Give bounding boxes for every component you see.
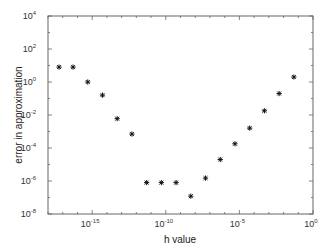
y-tick-label: 100 — [23, 76, 37, 87]
data-point-asterisk — [85, 79, 90, 84]
chart: 10-1510-1010-510010410210010-210-410-610… — [0, 0, 335, 252]
data-point-asterisk — [262, 108, 267, 113]
data-point-asterisk — [100, 93, 105, 98]
data-point-asterisk — [129, 131, 134, 136]
x-tick-label: 10-15 — [81, 218, 100, 229]
data-point-asterisk — [291, 74, 296, 79]
data-point-asterisk — [218, 157, 223, 162]
data-point-asterisk — [159, 180, 164, 185]
y-tick-label: 102 — [23, 43, 37, 54]
y-tick-label: 10-8 — [21, 208, 37, 219]
y-tick-label: 10-6 — [21, 175, 37, 186]
data-point-asterisk — [115, 116, 120, 121]
data-point-asterisk — [173, 180, 178, 185]
plot-frame — [48, 16, 313, 214]
plot-area: 10-1510-1010-510010410210010-210-410-610… — [21, 10, 319, 229]
data-point-asterisk — [144, 180, 149, 185]
x-axis-label: h value — [164, 234, 197, 245]
data-point-asterisk — [203, 175, 208, 180]
x-tick-label: 10-5 — [230, 218, 246, 229]
data-point-asterisk — [56, 64, 61, 69]
data-point-asterisk — [277, 91, 282, 96]
data-point-asterisk — [232, 141, 237, 146]
data-point-asterisk — [70, 64, 75, 69]
x-tick-label: 100 — [304, 218, 318, 229]
y-tick-label: 104 — [23, 10, 37, 21]
data-point-asterisk — [247, 126, 252, 131]
data-point-asterisk — [188, 194, 193, 199]
x-tick-label: 10-10 — [154, 218, 173, 229]
y-axis-label: error in approximation — [13, 66, 24, 163]
